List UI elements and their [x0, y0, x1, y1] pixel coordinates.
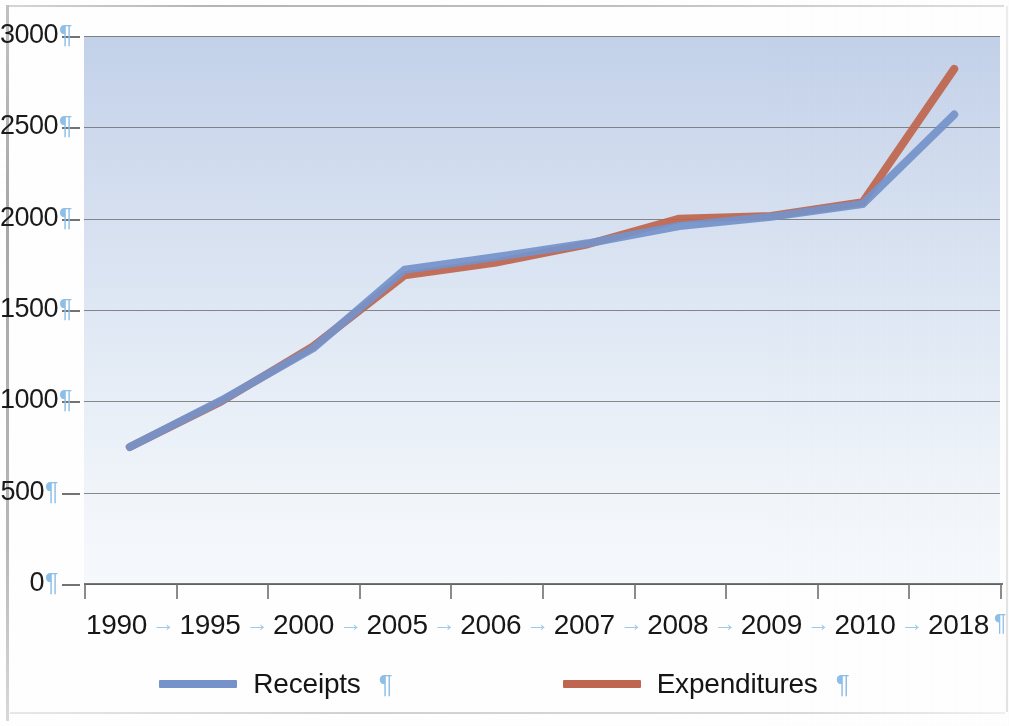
x-axis-label-2005: 2005 [365, 609, 430, 641]
x-tick-1 [176, 584, 178, 599]
y-tick-value: 2000 [0, 204, 58, 231]
tab-arrow-icon: → [242, 610, 271, 637]
chart-legend: Receipts¶Expenditures¶ [0, 658, 1009, 710]
paragraph-mark-icon: ¶ [45, 477, 58, 505]
y-tick-mark-500 [62, 493, 80, 495]
chart-figure: 3000¶2500¶2000¶1500¶1000¶500¶0¶ 1990→199… [0, 0, 1009, 726]
x-axis-label-2009: 2009 [739, 609, 804, 641]
paragraph-mark-icon: ¶ [59, 294, 72, 322]
y-tick-label-3000: 3000¶ [0, 21, 58, 48]
x-axis-label-2007: 2007 [552, 609, 617, 641]
x-tick-10 [1000, 584, 1002, 599]
y-tick-value: 3000 [0, 21, 58, 48]
paragraph-mark-icon: ¶ [59, 111, 72, 139]
legend-color-swatch [563, 680, 641, 688]
series-lines [84, 36, 1000, 584]
y-tick-value: 1000 [0, 386, 58, 413]
x-tick-0 [84, 584, 86, 599]
x-axis-label-2018: 2018 [926, 609, 991, 641]
legend-item-receipts[interactable]: Receipts¶ [159, 668, 392, 700]
tab-arrow-icon: → [710, 610, 739, 637]
legend-label: Expenditures [657, 668, 818, 700]
x-tick-7 [725, 584, 727, 599]
series-line-expenditures [130, 69, 954, 447]
paragraph-mark-icon: ¶ [59, 20, 72, 48]
y-tick-mark-0 [62, 584, 80, 586]
x-tick-6 [634, 584, 636, 599]
y-tick-label-1500: 1500¶ [0, 295, 58, 322]
tab-arrow-icon: → [897, 610, 926, 637]
x-tick-2 [267, 584, 269, 599]
paragraph-mark-icon: ¶ [45, 568, 58, 596]
x-axis-label-2000: 2000 [271, 609, 336, 641]
x-axis-labels: 1990→1995→2000→2005→2006→2007→2008→2009→… [84, 606, 1009, 644]
legend-color-swatch [159, 680, 237, 688]
x-axis-label-1990: 1990 [84, 609, 149, 641]
paragraph-mark-icon: ¶ [991, 610, 1009, 637]
tab-arrow-icon: → [149, 610, 178, 637]
x-tick-8 [817, 584, 819, 599]
y-tick-value: 1500 [0, 295, 58, 322]
legend-item-expenditures[interactable]: Expenditures¶ [563, 668, 850, 700]
x-axis-label-1995: 1995 [178, 609, 243, 641]
tab-arrow-icon: → [336, 610, 365, 637]
legend-label: Receipts [253, 668, 360, 700]
y-tick-label-0: 0¶ [0, 569, 58, 596]
y-tick-label-500: 500¶ [0, 478, 58, 505]
x-axis-label-2010: 2010 [833, 609, 898, 641]
paragraph-mark-icon: ¶ [59, 203, 72, 231]
y-tick-label-2000: 2000¶ [0, 204, 58, 231]
tab-arrow-icon: → [430, 610, 459, 637]
x-tick-5 [542, 584, 544, 599]
x-tick-9 [908, 584, 910, 599]
paragraph-mark-icon: ¶ [59, 385, 72, 413]
y-tick-value: 2500 [0, 112, 58, 139]
line-chart: 3000¶2500¶2000¶1500¶1000¶500¶0¶ 1990→199… [0, 0, 1009, 726]
y-tick-label-2500: 2500¶ [0, 112, 58, 139]
x-axis-label-2008: 2008 [645, 609, 710, 641]
x-tick-4 [450, 584, 452, 599]
series-line-receipts [130, 115, 954, 447]
y-tick-value: 0 [30, 569, 45, 596]
paragraph-mark-icon: ¶ [836, 669, 850, 700]
tab-arrow-icon: → [523, 610, 552, 637]
paragraph-mark-icon: ¶ [379, 669, 393, 700]
tab-arrow-icon: → [804, 610, 833, 637]
x-axis-label-2006: 2006 [458, 609, 523, 641]
y-tick-value: 500 [1, 478, 45, 505]
tab-arrow-icon: → [617, 610, 646, 637]
x-tick-3 [359, 584, 361, 599]
y-tick-label-1000: 1000¶ [0, 386, 58, 413]
